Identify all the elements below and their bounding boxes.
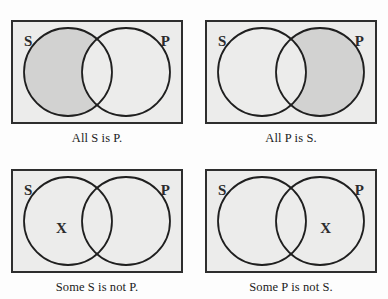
set-label-p: P: [161, 183, 170, 198]
venn-circles-diagram: [13, 22, 181, 122]
panel-caption: All P is S.: [265, 131, 316, 146]
panel-all-p-is-s: S P All P is S.: [194, 0, 388, 150]
venn-box: S P: [11, 20, 183, 124]
venn-circles-diagram: [207, 22, 375, 122]
x-marker-s-only: X: [56, 221, 67, 236]
panel-some-p-is-not-s: S P X Some P is not S.: [194, 150, 388, 299]
venn-diagram-figure: S P All S is P.: [0, 0, 388, 299]
set-label-s: S: [218, 34, 227, 49]
panel-some-s-is-not-p: S P X Some S is not P.: [0, 150, 194, 299]
set-label-p: P: [355, 34, 364, 49]
venn-circles-diagram: [207, 171, 375, 271]
panel-grid: S P All S is P.: [0, 0, 388, 299]
shaded-region-p-only: [207, 22, 375, 122]
venn-box: S P X: [11, 169, 183, 273]
set-label-s: S: [24, 183, 33, 198]
panel-caption: All S is P.: [72, 131, 122, 146]
venn-box: S P X: [205, 169, 377, 273]
circle-p: [82, 177, 170, 265]
x-marker-p-only: X: [320, 221, 331, 236]
set-label-s: S: [24, 34, 33, 49]
venn-circles-diagram: [13, 171, 181, 271]
circle-s: [218, 177, 306, 265]
set-label-p: P: [355, 183, 364, 198]
set-label-s: S: [218, 183, 227, 198]
circle-s: [24, 177, 112, 265]
panel-all-s-is-p: S P All S is P.: [0, 0, 194, 150]
panel-caption: Some S is not P.: [56, 280, 139, 295]
set-label-p: P: [161, 34, 170, 49]
shaded-region-s-only: [13, 22, 181, 122]
venn-box: S P: [205, 20, 377, 124]
panel-caption: Some P is not S.: [249, 280, 332, 295]
